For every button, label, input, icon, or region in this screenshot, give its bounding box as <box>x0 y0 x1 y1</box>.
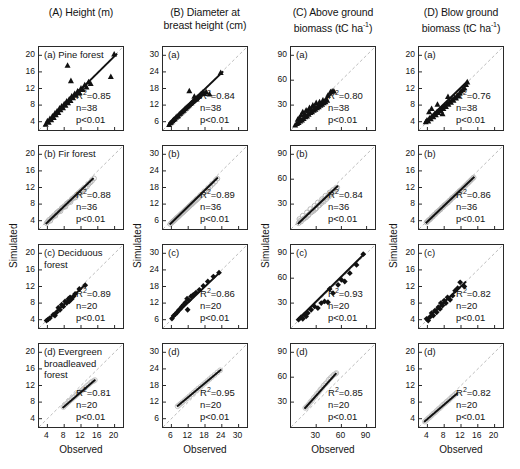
panel-label-Bd: (d) <box>168 346 180 358</box>
p-value: p<0.01 <box>456 114 491 126</box>
y-tick-label: 20 <box>13 148 35 158</box>
y-tick-label: 20 <box>393 148 415 158</box>
r-squared-value: R2=0.85 <box>76 87 111 102</box>
y-tick-label: 12 <box>137 99 159 109</box>
y-tick-label: 16 <box>13 264 35 274</box>
y-tick-label: 12 <box>393 281 415 291</box>
sample-size-value: n=36 <box>456 201 491 213</box>
x-axis-label-D: Observed <box>418 444 504 455</box>
panel-label-Db: (b) <box>424 148 436 160</box>
r-squared-value: R2=0.89 <box>200 186 235 201</box>
y-tick-label: 8 <box>393 297 415 307</box>
sample-size-value: n=36 <box>76 201 111 213</box>
stats-block-Dc: R2=0.82n=20p<0.01 <box>456 285 491 324</box>
x-tick-label: 20 <box>483 430 505 440</box>
y-tick-label: 6 <box>137 215 159 225</box>
panel-label-Cd: (d) <box>296 346 308 358</box>
column-title-line2: biomass (tC ha-1) <box>392 19 520 34</box>
column-title-line1: (D) Blow ground <box>392 6 520 19</box>
y-tick-label: 12 <box>393 380 415 390</box>
y-tick-label: 12 <box>13 83 35 93</box>
stats-block-Da: R2=0.76n=38p<0.01 <box>456 87 491 126</box>
sample-size-value: n=38 <box>76 102 111 114</box>
p-value: p<0.01 <box>456 411 491 423</box>
panel-label-Ad: (d) Evergreen broadleaved forest <box>44 346 102 381</box>
y-tick-label: 30 <box>265 99 287 109</box>
y-tick-label: 30 <box>137 346 159 356</box>
panel-label-Dc: (c) <box>424 247 435 259</box>
x-axis-label-B: Observed <box>162 444 248 455</box>
x-tick-label: 30 <box>227 430 249 440</box>
panel-label-Cc: (c) <box>296 247 307 259</box>
regression-line <box>424 393 458 422</box>
r-squared-value: R2=0.76 <box>456 87 491 102</box>
y-axis-label-D: Simulated <box>388 224 399 268</box>
y-axis-label-C: Simulated <box>260 224 271 268</box>
y-tick-label: 4 <box>393 116 415 126</box>
y-tick-label: 30 <box>137 49 159 59</box>
sample-size-value: n=20 <box>456 300 491 312</box>
y-tick-label: 8 <box>13 198 35 208</box>
panel-label-Dd: (d) <box>424 346 436 358</box>
y-tick-label: 12 <box>137 396 159 406</box>
x-tick-label: 60 <box>329 430 351 440</box>
panel-label-Ab: (b) Fir forest <box>44 148 96 160</box>
y-tick-label: 30 <box>137 247 159 257</box>
y-tick-label: 60 <box>265 173 287 183</box>
y-tick-label: 60 <box>265 371 287 381</box>
y-tick-label: 90 <box>265 346 287 356</box>
sample-size-value: n=38 <box>328 102 363 114</box>
y-tick-label: 90 <box>265 148 287 158</box>
stats-block-Ad: R2=0.81n=20p<0.01 <box>76 384 111 423</box>
y-tick-label: 16 <box>393 264 415 274</box>
p-value: p<0.01 <box>328 411 363 423</box>
y-tick-label: 12 <box>13 182 35 192</box>
p-value: p<0.01 <box>456 312 491 324</box>
y-tick-label: 18 <box>137 281 159 291</box>
y-tick-label: 30 <box>265 198 287 208</box>
y-tick-label: 20 <box>393 49 415 59</box>
y-tick-label: 4 <box>393 215 415 225</box>
p-value: p<0.01 <box>76 411 111 423</box>
column-title-line1: (A) Height (m) <box>12 6 150 19</box>
stats-block-Bc: R2=0.86n=20p<0.01 <box>200 285 235 324</box>
y-tick-label: 24 <box>137 363 159 373</box>
r-squared-value: R2=0.86 <box>456 186 491 201</box>
y-tick-label: 30 <box>137 148 159 158</box>
panel-label-Bb: (b) <box>168 148 180 160</box>
sample-size-value: n=20 <box>328 300 363 312</box>
y-tick-label: 60 <box>265 74 287 84</box>
column-title-line1: (C) Above ground <box>264 6 402 19</box>
panel-label-Aa: (a) Pine forest <box>44 49 104 61</box>
p-value: p<0.01 <box>328 312 363 324</box>
y-tick-label: 6 <box>137 413 159 423</box>
r-squared-value: R2=0.82 <box>456 384 491 399</box>
y-tick-label: 18 <box>137 182 159 192</box>
y-tick-label: 16 <box>393 66 415 76</box>
stats-block-Cc: R2=0.93n=20p<0.01 <box>328 285 363 324</box>
y-tick-label: 20 <box>393 247 415 257</box>
stats-block-Dd: R2=0.82n=20p<0.01 <box>456 384 491 423</box>
r-squared-value: R2=0.88 <box>76 186 111 201</box>
y-tick-label: 24 <box>137 66 159 76</box>
p-value: p<0.01 <box>76 312 111 324</box>
y-tick-label: 4 <box>13 215 35 225</box>
stats-block-Cb: R2=0.84n=36p<0.01 <box>328 186 363 225</box>
p-value: p<0.01 <box>328 114 363 126</box>
y-tick-label: 20 <box>13 346 35 356</box>
p-value: p<0.01 <box>200 114 235 126</box>
column-title-C: (C) Above groundbiomass (tC ha-1) <box>264 6 402 34</box>
panel-label-Ba: (a) <box>168 49 180 61</box>
stats-block-Ba: R2=0.84n=38p<0.01 <box>200 87 235 126</box>
p-value: p<0.01 <box>200 213 235 225</box>
r-squared-value: R2=0.85 <box>328 384 363 399</box>
stats-block-Ac: R2=0.89n=20p<0.01 <box>76 285 111 324</box>
y-tick-label: 8 <box>13 396 35 406</box>
p-value: p<0.01 <box>200 411 235 423</box>
y-tick-label: 4 <box>13 116 35 126</box>
y-tick-label: 20 <box>393 346 415 356</box>
r-squared-value: R2=0.89 <box>76 285 111 300</box>
p-value: p<0.01 <box>76 213 111 225</box>
sample-size-value: n=36 <box>328 201 363 213</box>
sample-size-value: n=20 <box>328 399 363 411</box>
